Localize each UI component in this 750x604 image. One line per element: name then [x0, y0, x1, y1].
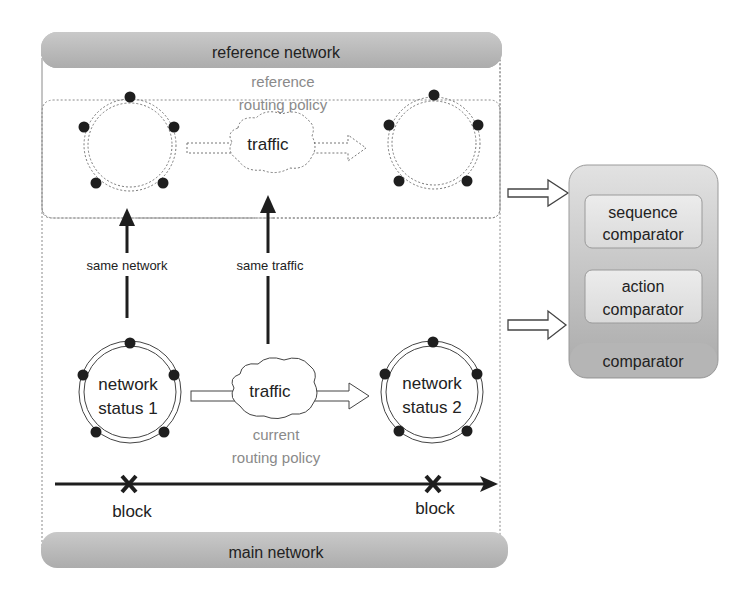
sequence-comparator-line2: comparator: [603, 226, 685, 243]
node: [472, 369, 483, 380]
node: [125, 92, 136, 103]
node: [169, 370, 180, 381]
action-comparator-line1: action: [622, 278, 665, 295]
node: [473, 120, 484, 131]
node: [78, 370, 89, 381]
node: [79, 122, 90, 133]
diagram-layer: reference network main network reference…: [0, 0, 750, 604]
node: [380, 369, 391, 380]
block-label-2: block: [415, 499, 455, 518]
node: [384, 120, 395, 131]
node: [91, 178, 102, 189]
node: [91, 427, 102, 438]
network-status-2-line1: network: [402, 374, 462, 393]
node: [169, 122, 180, 133]
reference-traffic-label: traffic: [247, 135, 289, 154]
reference-network-topology-left: [79, 92, 180, 192]
comparator-title: comparator: [603, 353, 685, 370]
comparator-block: [569, 165, 718, 378]
dashed-arrow-out: [310, 135, 366, 161]
dashed-arrow-shaft-in: [187, 143, 232, 153]
reference-policy-label-line2: routing policy: [239, 96, 328, 113]
arrow-up-icon: [119, 208, 135, 226]
arrow-up-icon: [260, 195, 276, 213]
block-label-1: block: [112, 502, 152, 521]
network-status-2-line2: status 2: [402, 398, 462, 417]
arrow-shaft-in: [191, 391, 235, 401]
arrow-out: [310, 383, 369, 409]
main-to-comparator-arrow: [508, 311, 566, 339]
action-comparator-line2: comparator: [603, 301, 685, 318]
main-traffic-label: traffic: [249, 382, 291, 401]
node: [462, 176, 473, 187]
node: [125, 338, 136, 349]
node: [462, 426, 473, 437]
reference-network-title: reference network: [212, 44, 341, 61]
same-network-label: same network: [87, 258, 168, 273]
main-network-title: main network: [228, 544, 324, 561]
node: [429, 90, 440, 101]
node: [394, 426, 405, 437]
reference-policy-label-line1: reference: [251, 73, 314, 90]
sequence-comparator-line1: sequence: [608, 204, 677, 221]
reference-network-topology-right: [384, 90, 484, 190]
reference-to-comparator-arrow: [508, 180, 568, 206]
current-policy-label-line2: routing policy: [232, 449, 321, 466]
current-policy-label-line1: current: [253, 426, 301, 443]
network-status-1-line1: network: [98, 375, 158, 394]
node: [428, 337, 439, 348]
network-status-1-line2: status 1: [98, 399, 158, 418]
node: [159, 427, 170, 438]
same-traffic-label: same traffic: [237, 258, 304, 273]
node: [158, 178, 169, 189]
node: [394, 176, 405, 187]
